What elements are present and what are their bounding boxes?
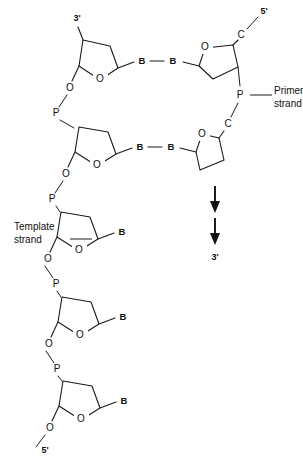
- p-c5-bond-primer: [231, 103, 238, 117]
- o-p-bond-3: [45, 266, 53, 278]
- ring-oxygen-label-5: O: [77, 413, 85, 424]
- c5-oxygen-bond-1: [72, 66, 79, 81]
- primer-glycosidic-2: [180, 148, 196, 152]
- template-nucleotide-2: O O P: [49, 127, 132, 212]
- arrow-1-head: [210, 201, 220, 213]
- primer-carbon-label-1: C: [237, 29, 244, 40]
- o-p-bond-4: [46, 351, 54, 363]
- five-prime-bond-primer: [247, 17, 258, 29]
- template-nucleotide-5: O B O 5': [36, 381, 128, 455]
- base-label-5: B: [121, 395, 128, 406]
- backbone-oxygen-label-5: O: [46, 422, 54, 433]
- primer-phosphorus-label: P: [237, 89, 244, 100]
- template-strand-label-line1: Template: [14, 221, 55, 232]
- phosphorus-label-3: P: [53, 278, 60, 289]
- glycosidic-bond-5: [100, 402, 116, 408]
- backbone-oxygen-label-1: O: [66, 82, 74, 93]
- base-label-4: B: [120, 311, 127, 322]
- primer-strand-annotation: Primer strand: [250, 85, 303, 109]
- template-nucleotide-1: O 3' O P: [53, 13, 134, 128]
- backbone-oxygen-label-4: O: [45, 338, 53, 349]
- ring-oxygen-label-1: O: [96, 73, 104, 84]
- primer-base-label-1: B: [170, 55, 177, 66]
- c3-p-bond-primer-1: [238, 67, 240, 86]
- o-p-bond-1: [59, 95, 67, 107]
- template-base-label-2: B: [137, 141, 144, 152]
- primer-nucleotide-1: O C 5' P: [183, 6, 268, 117]
- growth-arrow-2: [210, 218, 220, 245]
- primer-ring-oxygen-2: O: [198, 128, 206, 139]
- base-label-3: B: [119, 226, 126, 237]
- p-c3-bond-1: [60, 120, 74, 128]
- three-prime-bond-1: [78, 27, 83, 40]
- c5-c4-bond-2: [219, 131, 224, 138]
- ring-oxygen-label-4: O: [76, 329, 84, 340]
- template-strand-label-line2: strand: [14, 234, 42, 245]
- ring-oxygen-label-3: O: [75, 244, 83, 255]
- growth-arrow-1: [210, 186, 220, 213]
- three-prime-label: 3': [73, 13, 80, 23]
- primer-ring-oxygen-1: O: [201, 41, 209, 52]
- primer-nucleotide-2: C O: [180, 118, 232, 170]
- phosphorus-label-4: P: [54, 363, 61, 374]
- template-strand-annotation: Template strand: [14, 221, 92, 245]
- p-c3-bond-2: [56, 206, 60, 212]
- dna-replication-diagram: O 3' O P O O P: [0, 0, 303, 469]
- arrow-2-head: [210, 233, 220, 245]
- base-pair-2: B B: [137, 141, 175, 152]
- o-p-bond-2: [55, 181, 63, 193]
- phosphorus-label-1: P: [53, 107, 60, 118]
- primer-strand-label-line1: Primer: [274, 85, 303, 96]
- glycosidic-bond-4: [99, 318, 115, 324]
- figure-canvas: O 3' O P O O P: [0, 0, 303, 469]
- glycosidic-bond-1: [118, 62, 134, 68]
- three-prime-label-arrow: 3': [211, 252, 218, 262]
- c5-oxygen-bond-4: [51, 322, 58, 337]
- c4-c5-bond-1: [233, 40, 238, 45]
- c5-oxygen-bond-2: [68, 152, 75, 167]
- backbone-oxygen-label-3: O: [44, 253, 52, 264]
- c5-oxygen-bond-5: [52, 406, 59, 421]
- backbone-oxygen-label-2: O: [62, 168, 70, 179]
- glycosidic-bond-2: [116, 148, 132, 154]
- p-c3-bond-4: [58, 376, 62, 381]
- template-nucleotide-3: O B O P: [44, 212, 125, 297]
- primer-base-label-2: B: [168, 141, 175, 152]
- primer-carbon-label-2: C: [224, 118, 231, 129]
- template-nucleotide-4: O B O P: [45, 297, 126, 381]
- phosphorus-label-2: P: [49, 193, 56, 204]
- template-base-label-1: B: [139, 55, 146, 66]
- primer-glycosidic-1: [183, 62, 199, 66]
- five-prime-label-bottom: 5': [41, 445, 48, 455]
- five-prime-label-top: 5': [260, 6, 267, 16]
- base-pair-1: B B: [139, 55, 177, 66]
- glycosidic-bond-3: [98, 233, 114, 239]
- c5-oxygen-bond-3: [50, 237, 57, 252]
- primer-strand-label-line2: strand: [274, 98, 302, 109]
- p-c3-bond-3: [57, 291, 61, 297]
- ring-oxygen-label-2: O: [93, 159, 101, 170]
